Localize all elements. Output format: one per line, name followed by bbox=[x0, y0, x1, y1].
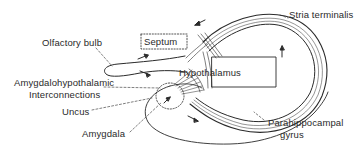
label-amygdalohypothalamic: Amygdalohypothalamic bbox=[14, 77, 114, 88]
olfactory-leader bbox=[96, 48, 112, 66]
label-interconnections: Interconnections bbox=[29, 89, 100, 100]
septum-fibers bbox=[198, 33, 222, 88]
limbic-diagram: Olfactory bulb Septum Stria terminalis H… bbox=[0, 0, 360, 151]
arrow-stria-bottom bbox=[188, 116, 198, 122]
label-septum: Septum bbox=[144, 36, 177, 47]
arrow-olfactory-upper bbox=[138, 54, 148, 59]
label-stria-terminalis: Stria terminalis bbox=[289, 9, 353, 20]
label-uncus: Uncus bbox=[62, 106, 89, 117]
arrow-stria-top bbox=[195, 20, 205, 25]
arrow-stria-right bbox=[280, 46, 284, 57]
label-gyrus: gyrus bbox=[280, 129, 304, 140]
uncus-leader bbox=[92, 98, 152, 110]
label-parahippocampal: Parahippocampal bbox=[268, 117, 343, 128]
label-hypothalamus: Hypothalamus bbox=[179, 67, 241, 78]
parahippocampal-leader bbox=[254, 112, 264, 120]
arrow-amygdala bbox=[164, 97, 170, 103]
label-olfactory-bulb: Olfactory bulb bbox=[42, 37, 102, 48]
label-amygdala: Amygdala bbox=[82, 128, 125, 139]
